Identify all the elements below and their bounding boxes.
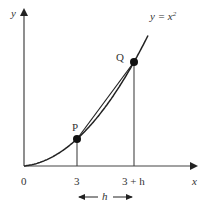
parabola-curve	[24, 36, 148, 167]
y-axis-label: y	[10, 7, 16, 19]
curve-label: y = x2	[149, 10, 177, 22]
tick-label-3: 3	[74, 175, 80, 187]
point-label-q: Q	[116, 51, 124, 63]
tick-label-3-plus-h: 3 + h	[122, 175, 145, 187]
interval-label-h: h	[102, 190, 108, 202]
curve-label-exponent: 2	[173, 10, 177, 18]
origin-label: 0	[21, 175, 27, 187]
secant-line	[77, 62, 134, 139]
point-p	[73, 135, 81, 143]
point-q	[130, 58, 138, 66]
curve-label-text: y = x	[149, 10, 173, 22]
diagram-canvas: y x 0 3 3 + h P Q y = x2 h	[0, 0, 210, 205]
x-axis-label: x	[191, 175, 197, 187]
point-label-p: P	[72, 121, 78, 133]
